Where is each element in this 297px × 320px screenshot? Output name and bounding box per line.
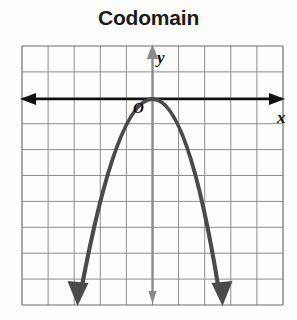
coordinate-plane bbox=[0, 0, 297, 320]
y-axis bbox=[147, 44, 158, 304]
x-axis-label: x bbox=[277, 108, 286, 128]
y-axis-label: y bbox=[157, 48, 165, 68]
origin-label: O bbox=[133, 100, 144, 117]
parabola-curve bbox=[68, 99, 233, 306]
figure-container: Codomain bbox=[0, 0, 297, 320]
